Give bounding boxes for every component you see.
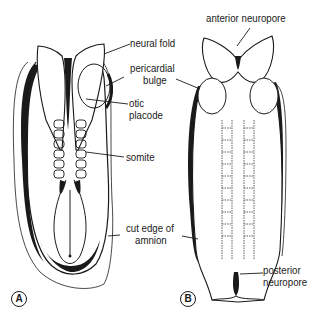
label-otic: otic (129, 97, 144, 109)
label-amnion: amnion (135, 234, 167, 246)
leader-neural-fold (104, 44, 130, 54)
panel-a-marker: A (11, 291, 27, 307)
label-posterior: posterior (263, 264, 301, 276)
label-placode: placode (129, 109, 163, 121)
label-neural-fold: neural fold (130, 37, 175, 49)
leader-pericardial-b (176, 79, 200, 89)
panel-b-marker: B (180, 291, 196, 307)
embryo-b (188, 36, 286, 302)
label-neuropore: neuropore (263, 276, 307, 288)
label-cut-edge-of: cut edge of (126, 222, 174, 234)
leader-somite (86, 152, 124, 157)
embryo-a (13, 44, 112, 288)
label-somite: somite (126, 151, 155, 163)
label-anterior-neuropore: anterior neuropore (206, 12, 286, 24)
leader-cut-edge-a (108, 235, 120, 236)
label-pericardial: pericardial (130, 62, 175, 74)
leader-anterior-neuropore (237, 28, 250, 46)
label-bulge: bulge (143, 74, 167, 86)
